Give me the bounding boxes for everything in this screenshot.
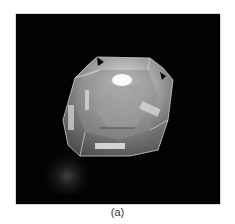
gemstone xyxy=(63,57,173,156)
diamond-image xyxy=(16,14,220,204)
figure-caption: (a) xyxy=(0,206,235,218)
diamond-photo xyxy=(16,14,220,204)
